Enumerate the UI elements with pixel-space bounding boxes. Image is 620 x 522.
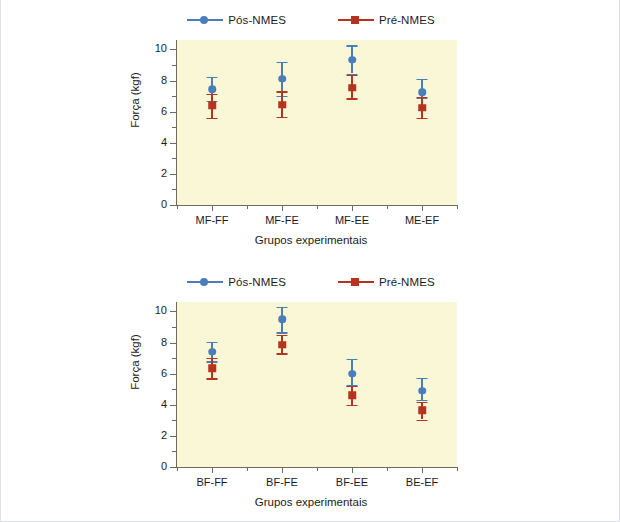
y-tick: 4 bbox=[170, 405, 176, 406]
x-tick-minor bbox=[247, 467, 248, 471]
x-tick-label: MF-EE bbox=[335, 214, 369, 226]
data-point-pos-nmes bbox=[348, 370, 356, 378]
error-bar-cap bbox=[207, 358, 218, 359]
y-tick-label: 10 bbox=[155, 304, 167, 316]
y-tick: 6 bbox=[170, 112, 176, 113]
x-tick-minor bbox=[457, 205, 458, 209]
y-tick: 0 bbox=[170, 205, 176, 206]
y-tick-minor bbox=[172, 127, 176, 128]
y-tick-minor bbox=[172, 189, 176, 190]
error-bar-cap bbox=[207, 118, 218, 119]
y-tick-minor bbox=[172, 420, 176, 421]
x-tick-label: BE-EF bbox=[406, 476, 438, 488]
chart-1-plot: 0246810 MF-FFMF-FEMF-EEME-EF Grupos expe… bbox=[1, 0, 620, 251]
x-tick bbox=[352, 467, 353, 473]
error-bar-cap bbox=[417, 79, 428, 80]
y-tick-minor bbox=[172, 96, 176, 97]
data-point-pos-nmes bbox=[208, 348, 216, 356]
data-point-pre-nmes bbox=[208, 364, 216, 372]
chart-1-x-axis-title: Grupos experimentais bbox=[1, 234, 620, 246]
data-point-pre-nmes bbox=[418, 406, 426, 414]
y-tick-label: 4 bbox=[161, 136, 167, 148]
y-tick-label: 2 bbox=[161, 429, 167, 441]
y-tick-minor bbox=[172, 389, 176, 390]
error-bar-cap bbox=[417, 420, 428, 421]
data-point-pos-nmes bbox=[208, 85, 216, 93]
data-point-pre-nmes bbox=[278, 101, 286, 109]
data-point-pos-nmes bbox=[348, 56, 356, 64]
y-tick-label: 4 bbox=[161, 398, 167, 410]
error-bar-cap bbox=[347, 98, 358, 99]
y-tick: 8 bbox=[170, 343, 176, 344]
x-tick bbox=[422, 467, 423, 473]
y-tick: 10 bbox=[170, 49, 176, 50]
chart-2-plot: 0246810 BF-FFBF-FEBF-EEBE-EF Grupos expe… bbox=[1, 262, 620, 513]
x-tick bbox=[212, 205, 213, 211]
chart-2-x-axis-title: Grupos experimentais bbox=[1, 496, 620, 508]
error-bar-cap bbox=[417, 97, 428, 98]
figure-page: Pós-NMES Pré-NMES 0246810 MF-FFMF-FEMF-E… bbox=[0, 0, 620, 522]
x-tick bbox=[422, 205, 423, 211]
x-tick-label: ME-EF bbox=[405, 214, 439, 226]
x-tick bbox=[282, 205, 283, 211]
error-bar-cap bbox=[207, 342, 218, 343]
y-tick-label: 8 bbox=[161, 74, 167, 86]
x-tick-label: BF-FE bbox=[266, 476, 298, 488]
data-point-pre-nmes bbox=[208, 102, 216, 110]
y-tick: 2 bbox=[170, 174, 176, 175]
y-tick: 2 bbox=[170, 436, 176, 437]
y-tick-label: 6 bbox=[161, 367, 167, 379]
chart-2-plot-area bbox=[177, 302, 457, 467]
x-tick bbox=[282, 467, 283, 473]
error-bar-cap bbox=[277, 62, 288, 63]
chart-1-y-axis bbox=[176, 40, 177, 206]
y-tick-minor bbox=[172, 451, 176, 452]
error-bar-cap bbox=[277, 307, 288, 308]
error-bar-cap bbox=[207, 378, 218, 379]
x-tick-minor bbox=[457, 467, 458, 471]
chart-1-y-axis-title: Força (kgf) bbox=[129, 72, 141, 128]
x-tick bbox=[212, 467, 213, 473]
x-tick bbox=[352, 205, 353, 211]
error-bar-cap bbox=[277, 91, 288, 92]
x-tick-label: BF-EE bbox=[336, 476, 368, 488]
data-point-pre-nmes bbox=[348, 392, 356, 400]
x-tick-minor bbox=[387, 205, 388, 209]
y-tick-minor bbox=[172, 358, 176, 359]
error-bar-cap bbox=[417, 402, 428, 403]
y-tick-minor bbox=[172, 65, 176, 66]
y-tick-minor bbox=[172, 158, 176, 159]
data-point-pos-nmes bbox=[418, 88, 426, 96]
error-bar-cap bbox=[347, 359, 358, 360]
error-bar-cap bbox=[277, 332, 288, 333]
error-bar-cap bbox=[347, 386, 358, 387]
error-bar-cap bbox=[207, 77, 218, 78]
x-tick-minor bbox=[387, 467, 388, 471]
y-tick-label: 6 bbox=[161, 105, 167, 117]
error-bar-cap bbox=[207, 94, 218, 95]
data-point-pos-nmes bbox=[278, 315, 286, 323]
error-bar-cap bbox=[277, 335, 288, 336]
y-tick: 0 bbox=[170, 467, 176, 468]
y-tick-label: 2 bbox=[161, 167, 167, 179]
data-point-pos-nmes bbox=[418, 387, 426, 395]
y-tick-minor bbox=[172, 327, 176, 328]
y-tick-label: 10 bbox=[155, 42, 167, 54]
data-point-pos-nmes bbox=[278, 75, 286, 83]
error-bar-cap bbox=[347, 45, 358, 46]
error-bar-cap bbox=[417, 378, 428, 379]
chart-2-y-axis-title: Força (kgf) bbox=[129, 334, 141, 390]
x-tick-minor bbox=[177, 467, 178, 471]
x-tick-minor bbox=[317, 205, 318, 209]
error-bar-cap bbox=[277, 353, 288, 354]
x-tick-minor bbox=[177, 205, 178, 209]
y-tick: 4 bbox=[170, 143, 176, 144]
chart-panel-2: Pós-NMES Pré-NMES 0246810 BF-FFBF-FEBF-E… bbox=[1, 262, 620, 513]
y-tick: 6 bbox=[170, 374, 176, 375]
y-tick-label: 0 bbox=[161, 460, 167, 472]
figure-stack: Pós-NMES Pré-NMES 0246810 MF-FFMF-FEMF-E… bbox=[1, 0, 620, 522]
error-bar-cap bbox=[417, 118, 428, 119]
y-tick-label: 8 bbox=[161, 336, 167, 348]
y-tick: 8 bbox=[170, 81, 176, 82]
y-tick: 10 bbox=[170, 311, 176, 312]
